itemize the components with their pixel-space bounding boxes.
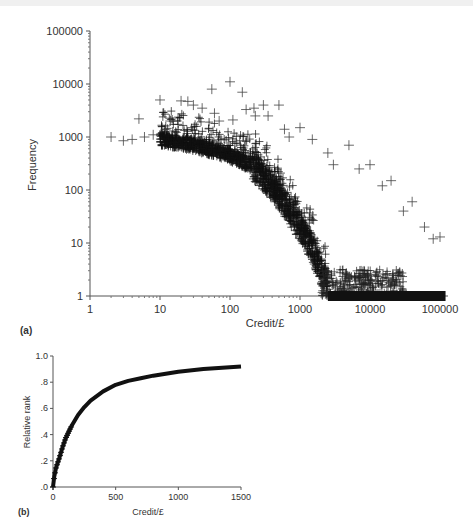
chart-b-y-tick-label: .2 xyxy=(40,456,48,466)
chart-a-points xyxy=(106,77,445,301)
chart-a-y-axis-label: Frequency xyxy=(26,139,38,191)
chart-a-y-tick-label: 10 xyxy=(71,237,83,249)
chart-a-y-tick-label: 1 xyxy=(77,290,83,302)
chart-b-y-tick-label: .4 xyxy=(40,430,48,440)
chart-a-x-tick-label: 100000 xyxy=(422,303,459,315)
chart-a-x-axis-label: Credit/£ xyxy=(246,317,285,329)
chart-b-y-axis-label: Relative rank xyxy=(22,395,32,448)
chart-a-panel-tag: (a) xyxy=(20,325,32,336)
chart-a-x-tick-label: 1 xyxy=(87,303,93,315)
chart-a-x-tick-label: 1000 xyxy=(288,303,312,315)
chart-b-x-tick-label: 0 xyxy=(50,492,55,502)
chart-a-x-tick-label: 10000 xyxy=(355,303,386,315)
chart-b-x-tick-label: 500 xyxy=(108,492,123,502)
chart-b-axes: 1.0.8.6.4.2.0050010001500 xyxy=(35,351,251,502)
chart-b-x-tick-label: 1000 xyxy=(168,492,188,502)
chart-b-panel-tag: (b) xyxy=(18,507,30,517)
chart-b-x-tick-label: 1500 xyxy=(231,492,251,502)
chart-b-x-axis-label: Credit/£ xyxy=(132,507,164,517)
chart-a-x-tick-label: 10 xyxy=(154,303,166,315)
chart-a-y-tick-label: 100000 xyxy=(46,25,83,37)
chart-b-y-tick-label: .8 xyxy=(40,377,48,387)
chart-a-y-tick-label: 100 xyxy=(65,184,83,196)
chart-b-points xyxy=(50,366,241,490)
chart-b-y-tick-label: .0 xyxy=(40,482,48,492)
chart-a-y-tick-label: 1000 xyxy=(59,131,83,143)
chart-b-y-tick-label: .6 xyxy=(40,403,48,413)
chart-a-x-tick-label: 100 xyxy=(221,303,239,315)
chart-a-frequency-vs-credit: 1110101001001000100010000100001000001000… xyxy=(0,0,473,340)
chart-b-y-tick-label: 1.0 xyxy=(35,351,48,361)
chart-a-y-tick-label: 10000 xyxy=(52,78,83,90)
